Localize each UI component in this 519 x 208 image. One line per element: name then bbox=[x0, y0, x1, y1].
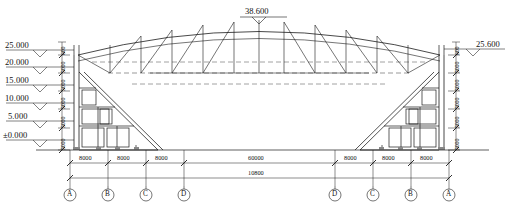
elevation-label-10000: 10.000 bbox=[5, 94, 29, 103]
bay-dim-right-3: 8000 bbox=[420, 155, 433, 161]
center-span-dim: 60000 bbox=[248, 155, 264, 161]
drawing-canvas bbox=[0, 0, 519, 208]
elevation-label-20000: 20.000 bbox=[5, 58, 29, 67]
vertical-dim-right-5000-c: 5000 bbox=[454, 98, 460, 109]
vertical-dim-left-5000-c: 5000 bbox=[60, 98, 66, 109]
truss-web-right bbox=[284, 22, 440, 73]
vertical-dim-right-5000-d: 5000 bbox=[454, 117, 460, 128]
grid-bubble-right-B: B bbox=[408, 191, 413, 198]
apex-elevation-label: 38.600 bbox=[245, 7, 268, 16]
elevation-label-25000: 25.000 bbox=[5, 41, 29, 50]
vertical-dim-right-5000-a: 5000 bbox=[454, 62, 460, 73]
structural-elevation-drawing: 38.600 25.000 20.000 15.000 10.000 5.000… bbox=[0, 0, 519, 208]
bay-dim-right-1: 8000 bbox=[344, 155, 357, 161]
apex-leader bbox=[240, 17, 287, 24]
grid-bubble-right-C: C bbox=[370, 191, 375, 198]
vertical-dim-right-5000-b: 5000 bbox=[454, 80, 460, 91]
vertical-dim-left-5000-b: 5000 bbox=[60, 80, 66, 91]
grid-bubble-left-C: C bbox=[143, 191, 148, 198]
bay-dim-left-3: 8000 bbox=[155, 155, 168, 161]
grid-bubbles bbox=[64, 186, 455, 201]
grid-bubble-left-D: D bbox=[181, 191, 186, 198]
elevation-label-25600: 25.600 bbox=[476, 40, 500, 49]
grid-bubble-left-B: B bbox=[105, 191, 110, 198]
vertical-dim-left-600: 600 bbox=[60, 47, 66, 55]
grid-bubble-right-D: D bbox=[332, 191, 337, 198]
total-span-dim: 10800 bbox=[248, 170, 264, 176]
bay-dim-right-2: 8000 bbox=[382, 155, 395, 161]
vertical-dim-left-5000-a: 5000 bbox=[60, 62, 66, 73]
vertical-dim-left-5000-e: 5000 bbox=[60, 139, 66, 150]
grid-bubble-left-A: A bbox=[67, 191, 72, 198]
vertical-dim-right-600: 600 bbox=[454, 47, 460, 55]
truss-web-left bbox=[78, 22, 234, 73]
elevation-label-15000: 15.000 bbox=[5, 76, 29, 85]
grid-bubble-right-A: A bbox=[446, 191, 451, 198]
elevation-label-5000: 5.000 bbox=[8, 112, 28, 121]
elevation-label-0000: ±0.000 bbox=[3, 131, 27, 140]
vertical-dim-left-5000-d: 5000 bbox=[60, 117, 66, 128]
vertical-dim-right-5000-e: 5000 bbox=[454, 139, 460, 150]
bay-dim-left-1: 8000 bbox=[79, 155, 92, 161]
bay-dim-left-2: 8000 bbox=[117, 155, 130, 161]
